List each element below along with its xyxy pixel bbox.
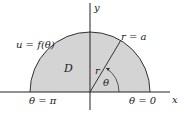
theta-pi-label: θ = π [29, 95, 57, 106]
radius-label: r = a [121, 31, 147, 42]
x-axis-label: x [172, 94, 178, 105]
curve-label: u = f(θ) [16, 39, 55, 50]
angle-label: θ [103, 77, 109, 88]
polar-region-diagram: y x u = f(θ) r = a D r θ θ = π θ = 0 [0, 0, 184, 115]
region-label: D [63, 62, 73, 75]
theta-zero-label: θ = 0 [129, 95, 157, 106]
y-axis-label: y [93, 2, 100, 13]
